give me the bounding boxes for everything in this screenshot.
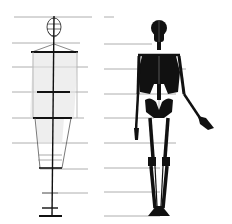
schematic-figure: [30, 16, 78, 216]
spine: [157, 84, 161, 100]
proportion-diagram: [0, 0, 232, 224]
right-hand: [198, 116, 214, 130]
feet: [148, 206, 170, 216]
diagram-canvas: [0, 0, 232, 224]
center-axis: [52, 16, 54, 216]
